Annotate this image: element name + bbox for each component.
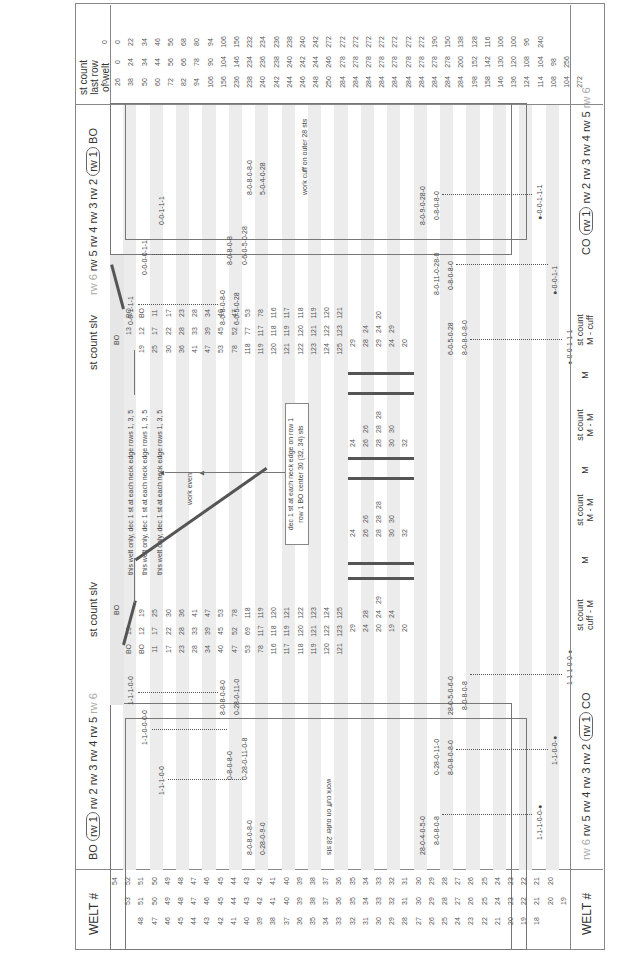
welt-number: 32	[387, 873, 396, 889]
last-row-count: 238	[245, 74, 254, 90]
welt-number: 49	[163, 873, 172, 889]
welt-number: 33	[374, 873, 383, 889]
seq-right-15: 8-0-8-0-8-0	[460, 320, 469, 355]
welt-number: 21	[493, 913, 502, 929]
welt-number: 43	[242, 893, 251, 909]
welt-number: 50	[150, 893, 159, 909]
welt-number: 48	[176, 873, 185, 889]
seq-right-11: 0-8-0-8-0	[432, 191, 441, 220]
cuff-count: 24	[361, 322, 370, 336]
last-row-count: 278	[377, 54, 386, 70]
welt-number: 31	[361, 913, 370, 929]
welt-number: 20	[546, 893, 555, 909]
slv-count: 122	[296, 341, 305, 357]
welt-number: 31	[400, 893, 409, 909]
last-row-count: 284	[404, 74, 413, 90]
last-row-count: 50	[140, 74, 149, 90]
slv-count: 78	[230, 341, 239, 357]
seq-left-14: 28-0-5-0-6-0	[446, 676, 455, 715]
last-row-count: 68	[179, 34, 188, 50]
slv-count: 121	[309, 623, 318, 639]
cuff-count: 28	[374, 408, 383, 422]
footer-st-count-m-cuff: st count M - cuff	[575, 300, 595, 360]
cuff-count: 26	[361, 422, 370, 436]
slv-count: 124	[322, 605, 331, 621]
last-row-count: 82	[179, 74, 188, 90]
cuff-count: 29	[348, 336, 357, 350]
seq-right-9: 5-0-4-0-28	[258, 162, 267, 195]
cuff-count: 24	[348, 436, 357, 450]
slv-count: 25	[150, 341, 159, 357]
slv-count: 122	[322, 323, 331, 339]
welt-number: 28	[440, 893, 449, 909]
slv-count: 17	[150, 323, 159, 339]
cuff-count: 24	[387, 607, 396, 621]
slv-count: 121	[282, 341, 291, 357]
slv-count: 33	[190, 323, 199, 339]
slv-count: 118	[296, 641, 305, 657]
last-row-count: 56	[166, 34, 175, 50]
slv-count: 39	[203, 623, 212, 639]
slv-count: 117	[282, 305, 291, 321]
welt-number: 32	[387, 893, 396, 909]
welt-number: 51	[136, 873, 145, 889]
welt-number: 32	[348, 913, 357, 929]
last-row-count: 0	[113, 54, 122, 70]
neck-flat-right	[134, 350, 135, 395]
welt-number: 48	[176, 893, 185, 909]
welt-number: 29	[427, 893, 436, 909]
dotted-arrow-left-3	[168, 779, 243, 780]
slv-count: 13	[124, 623, 133, 639]
slv-count: 120	[269, 605, 278, 621]
welt-number: 44	[229, 893, 238, 909]
last-row-count: 136	[509, 74, 518, 90]
cuff-count: 20	[400, 621, 409, 635]
slv-count: BO	[137, 305, 146, 321]
slv-count: 120	[322, 305, 331, 321]
slv-count: BO	[124, 305, 133, 321]
welt-number: 18	[532, 913, 541, 929]
seq-right-13: 0-8-0-8-0	[446, 261, 455, 290]
welt-number: 22	[480, 913, 489, 929]
slv-count: 28	[177, 323, 186, 339]
seq-right-10: 8-0-9-0-28-0	[418, 186, 427, 225]
slv-count: 25	[150, 605, 159, 621]
seq-left-17: 1-1-0-0-●	[550, 736, 559, 765]
cuff-marker-bar	[348, 392, 414, 395]
slv-count: 17	[150, 623, 159, 639]
header-right-rows: rw 6 rw 5 rw 4 rw 3 rw 2 rw 1 BO	[87, 128, 99, 295]
slv-count: 19	[137, 605, 146, 621]
cuff-count: 24	[387, 336, 396, 350]
last-row-count: 0	[113, 34, 122, 50]
bo-label: BO	[87, 844, 99, 860]
welt-number: 54	[110, 873, 119, 889]
last-row-count: 22	[126, 34, 135, 50]
slv-count: 118	[296, 305, 305, 321]
footer-st-count-m-m-2: st count M - M	[575, 395, 595, 455]
seq-left-8: 8-0-8-0-8-0	[245, 820, 254, 855]
last-row-count: 236	[232, 74, 241, 90]
cuff-count: 28	[374, 498, 383, 512]
slv-count: 13	[124, 323, 133, 339]
last-row-count: 96	[522, 34, 531, 50]
cuff-count: 30	[387, 436, 396, 450]
welt-number: 28	[400, 913, 409, 929]
slv-count: 53	[216, 605, 225, 621]
welt-number: 39	[255, 913, 264, 929]
seq-right-6: 8-0-8-0-8	[225, 236, 234, 265]
cuff-marker-bar	[348, 457, 414, 460]
slv-count: 69	[243, 623, 252, 639]
welt-number: 41	[229, 913, 238, 929]
header-st-count-slv-right: st count slv	[87, 315, 99, 370]
welt-number: 24	[493, 873, 502, 889]
slv-count: 47	[203, 341, 212, 357]
footer-m2: M	[580, 460, 590, 480]
bo-label-right: BO	[112, 335, 121, 345]
welt-number: 25	[480, 893, 489, 909]
last-row-count: 104	[536, 54, 545, 70]
seq-right-17: ●-0-0-1-1	[550, 266, 559, 295]
welt-number: 37	[282, 913, 291, 929]
welt-number: 19	[559, 893, 568, 909]
last-row-count: 0	[100, 74, 109, 90]
slv-count: 121	[282, 605, 291, 621]
